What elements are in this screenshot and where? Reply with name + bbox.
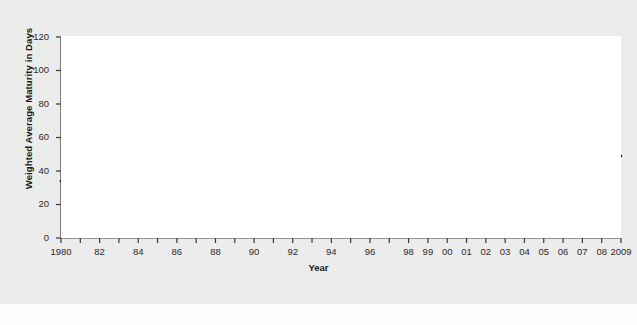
x-axis-tick-label: 94: [326, 246, 337, 257]
x-axis-tick-label: 06: [558, 246, 569, 257]
x-axis-tick-label: 07: [577, 246, 588, 257]
y-axis-tick-label: 80: [13, 98, 49, 109]
x-axis-tick-label: 00: [442, 246, 453, 257]
x-axis-tick-label: 99: [423, 246, 434, 257]
y-axis-tick-label: 40: [13, 165, 49, 176]
y-axis-tick-label: 0: [13, 232, 49, 243]
line-chart-figure: Weighted Average Maturity in Days Year 0…: [0, 0, 637, 325]
x-axis-tick-label: 03: [500, 246, 511, 257]
y-axis-tick-label: 60: [13, 131, 49, 142]
figure-page: Weighted Average Maturity in Days Year 0…: [0, 0, 637, 325]
x-axis-tick-label: 82: [94, 246, 105, 257]
x-axis-tick-label: 86: [172, 246, 183, 257]
x-axis-tick-label: 08: [596, 246, 607, 257]
x-axis-tick-label: 90: [249, 246, 260, 257]
x-axis-tick-label: 1980: [50, 246, 71, 257]
y-axis-tick-label: 120: [13, 31, 49, 42]
x-axis-tick-label: 98: [403, 246, 414, 257]
x-axis-tick-label: 02: [481, 246, 492, 257]
x-axis-tick-label: 05: [538, 246, 549, 257]
x-axis-tick-label: 96: [365, 246, 376, 257]
x-axis-tick-label: 2009: [610, 246, 631, 257]
y-axis-tick-label: 20: [13, 198, 49, 209]
x-axis-tick-label: 01: [461, 246, 472, 257]
x-axis-tick-label: 04: [519, 246, 530, 257]
x-axis-tick-label: 92: [287, 246, 298, 257]
plot-area-background: [61, 36, 621, 238]
x-axis-tick-label: 88: [210, 246, 221, 257]
y-axis-tick-label: 100: [13, 64, 49, 75]
x-axis-ticks: [61, 238, 621, 243]
x-axis-title: Year: [0, 262, 637, 273]
x-axis-tick-label: 84: [133, 246, 144, 257]
